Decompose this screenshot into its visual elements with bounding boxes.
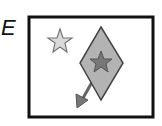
diagram-panel (0, 0, 162, 126)
